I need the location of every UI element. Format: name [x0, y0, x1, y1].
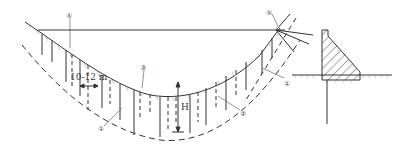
- callout-3: ③: [140, 64, 146, 72]
- callout-1-right: ①: [284, 80, 290, 88]
- depth-label: H: [181, 102, 189, 112]
- callout-1-left: ①: [98, 125, 104, 133]
- dam-grouting-diagram: 10-12 m H ④ ③ ① ② ① ⑤: [0, 0, 412, 152]
- spacing-label: 10-12 m: [70, 72, 108, 82]
- dam-body: [322, 30, 360, 80]
- valley-ground-profile: [25, 22, 280, 97]
- spacing-dimension: [80, 84, 98, 88]
- callout-5: ⑤: [266, 9, 272, 17]
- grout-curtain-boundary: [22, 40, 300, 140]
- callout-4: ④: [66, 12, 72, 20]
- grout-holes: [42, 34, 272, 137]
- callout-leaders: [70, 14, 284, 126]
- drainage-holes: [72, 54, 236, 130]
- callout-2: ②: [240, 110, 246, 118]
